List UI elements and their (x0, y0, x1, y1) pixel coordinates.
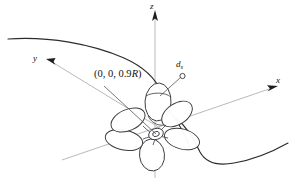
propeller-blade-right (162, 124, 202, 153)
coordinate-prefix: (0, 0, 0.9 (94, 68, 132, 79)
x-axis-label: x (276, 76, 280, 85)
coordinate-suffix: ) (138, 68, 142, 79)
coordinate-point-label: (0, 0, 0.9R) (94, 69, 142, 80)
ds-marker-label: ds (176, 60, 183, 70)
z-axis-label: z (150, 2, 154, 11)
ds-subscript: s (181, 63, 184, 70)
y-axis-label: y (33, 54, 37, 63)
x-axis-arrowhead (267, 85, 278, 91)
propeller-group (103, 82, 202, 172)
propeller-coordinate-diagram: z x y (0, 0, 0.9R) ds (0, 0, 295, 188)
hull-upper-curve (8, 38, 161, 92)
y-axis-arrowhead (46, 58, 56, 65)
ds-marker-dot (180, 73, 185, 78)
